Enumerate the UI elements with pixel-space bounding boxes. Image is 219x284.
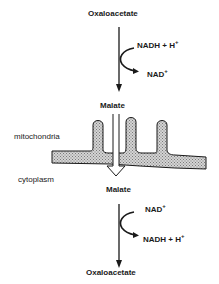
mito-cofactor-in-sup: +: [175, 39, 179, 45]
cytoplasm-compartment-label: cytoplasm: [18, 176, 54, 184]
mito-cofactor-out-sup: +: [164, 68, 168, 74]
mitochondrial-membrane: [52, 118, 206, 170]
mito-cofactor-out-label: NAD+: [147, 71, 168, 79]
transport-arrow: [107, 114, 125, 176]
cyto-cofactor-out-base: NADH + H: [143, 235, 181, 244]
mito-cofactor-in-label: NADH + H+: [137, 42, 179, 50]
mito-product-label: Malate: [100, 102, 125, 110]
cyto-cofactor-out-label: NADH + H+: [143, 236, 185, 244]
cyto-cofactor-in-sup: +: [162, 203, 166, 209]
cyto-product-label: Oxaloacetate: [86, 269, 136, 277]
cyto-cofactor-in-label: NAD+: [145, 206, 166, 214]
mitochondria-compartment-label: mitochondria: [14, 133, 60, 141]
mito-cofactor-in-base: NADH + H: [137, 41, 175, 50]
cyto-cofactor-out-sup: +: [181, 233, 185, 239]
mito-substrate-label: Oxaloacetate: [88, 10, 138, 18]
mito-cofactor-curve-arrow: [121, 48, 140, 74]
cyto-substrate-label: Malate: [106, 186, 131, 194]
mito-cofactor-out-base: NAD: [147, 70, 164, 79]
cyto-reaction-arrow: [116, 204, 122, 268]
cyto-cofactor-curve-arrow: [121, 212, 140, 238]
diagram-canvas: [0, 0, 219, 284]
cyto-cofactor-in-base: NAD: [145, 205, 162, 214]
